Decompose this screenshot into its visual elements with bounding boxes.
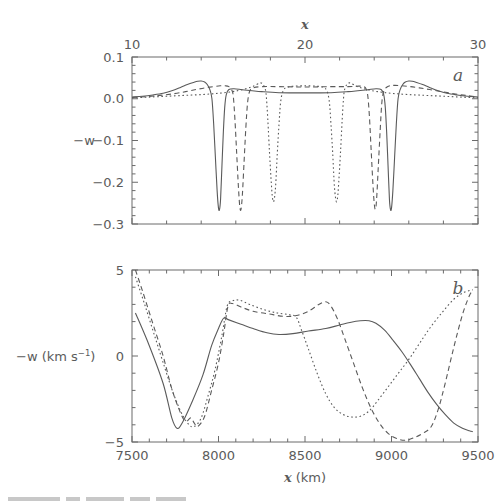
panel-b-x-tick-label: 8500 <box>288 448 321 463</box>
panel-b-y-tick-label: 5 <box>116 263 124 278</box>
panel-a-frame <box>132 57 478 224</box>
panel-b-x-axis-title-main: x <box>283 470 292 485</box>
panel-b-x-tick-label: 9500 <box>461 448 494 463</box>
panel-b-x-tick-label: 8000 <box>202 448 235 463</box>
panel-b-y-axis-title: −w (km s−1) <box>16 348 95 364</box>
curve-solid <box>135 313 472 432</box>
panel-b-y-axis-title-exp: −1 <box>78 348 91 358</box>
panel-b-x-tick-label: 7500 <box>115 448 148 463</box>
caption-text-fragment <box>86 497 124 501</box>
caption-text-fragment <box>8 497 60 501</box>
figure-container: 1020300.10.0−0.1−0.2−0.3x−wa750080008500… <box>0 0 501 502</box>
curve-dotted <box>132 83 478 202</box>
panel-a-y-tick-label: −0.1 <box>92 133 124 148</box>
panel-b-x-tick-label: 9000 <box>375 448 408 463</box>
caption-text-fragment <box>130 497 150 501</box>
panel-a-x-axis-title: x <box>300 17 309 32</box>
panel-a-x-tick-label: 10 <box>124 37 141 52</box>
curve-dotted <box>135 277 472 427</box>
panel-b-y-tick-label: −5 <box>105 435 124 450</box>
panel-b-y-axis-title-main: −w (km s <box>16 349 78 364</box>
panel-b-y-tick-label: 0 <box>116 349 124 364</box>
panel-b-x-axis-title-unit: (km) <box>296 470 326 485</box>
panel-b-frame <box>132 270 478 442</box>
panel-a-y-tick-label: −0.2 <box>92 175 124 190</box>
panel-a-y-tick-label: 0.0 <box>103 91 124 106</box>
caption-fragment <box>8 497 186 501</box>
curve-solid <box>132 81 478 211</box>
panel-a-label: a <box>453 65 463 85</box>
panel-b-label: b <box>453 278 464 298</box>
panel-a: 1020300.10.0−0.1−0.2−0.3x−wa <box>73 17 486 232</box>
curve-dashed <box>132 85 478 210</box>
caption-text-fragment <box>156 497 186 501</box>
panel-b-x-axis-title: x(km) <box>283 470 326 485</box>
panel-a-x-tick-label: 20 <box>297 37 314 52</box>
panel-a-y-tick-label: 0.1 <box>103 50 124 65</box>
panel-b-y-axis-title-tail: ) <box>90 349 95 364</box>
caption-text-fragment <box>66 497 80 501</box>
panel-a-x-tick-label: 30 <box>470 37 487 52</box>
panel-a-y-axis-title: −w <box>73 133 95 148</box>
figure-svg: 1020300.10.0−0.1−0.2−0.3x−wa750080008500… <box>0 0 501 502</box>
panel-b: 7500800085009000950050−5x(km)−w (km s−1)… <box>16 263 495 486</box>
panel-a-y-tick-label: −0.3 <box>92 217 124 232</box>
